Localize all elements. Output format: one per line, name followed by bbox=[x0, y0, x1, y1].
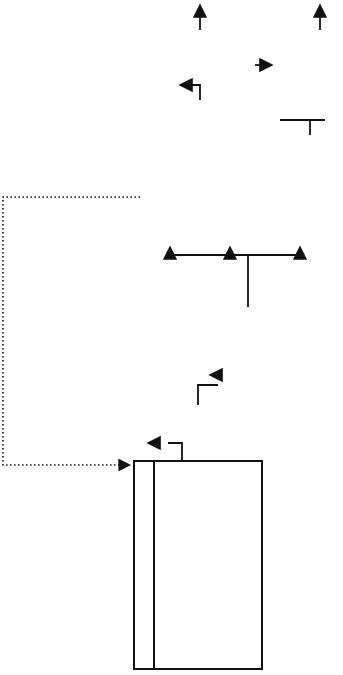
step-1-body bbox=[155, 462, 261, 668]
flowchart-canvas bbox=[0, 0, 343, 675]
step-1-title bbox=[135, 462, 155, 668]
step-1-box bbox=[133, 460, 263, 670]
